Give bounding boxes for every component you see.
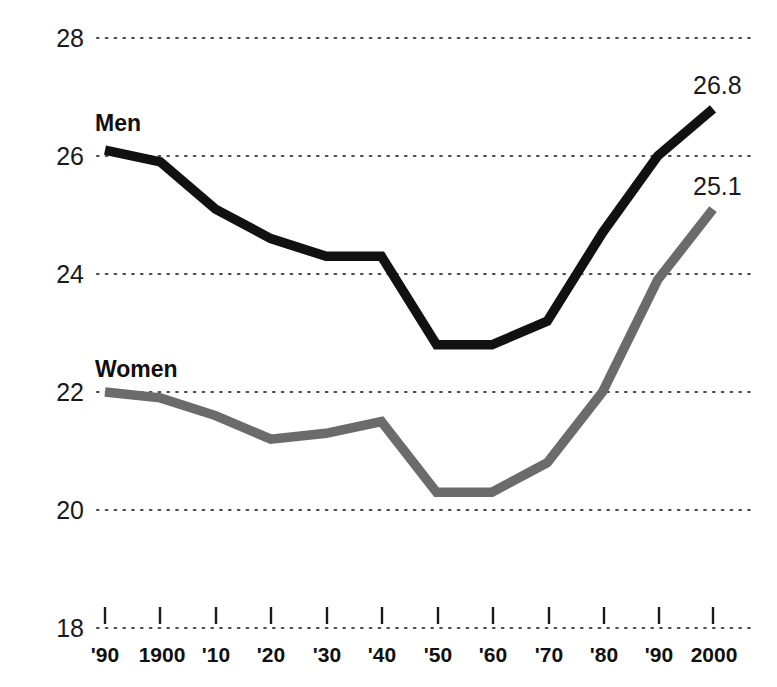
- y-axis-label-28: 28: [26, 26, 84, 51]
- series-line-men: [105, 109, 713, 345]
- y-axis-label-20: 20: [26, 498, 84, 523]
- x-axis-label-1: 1900: [139, 644, 186, 665]
- x-axis-label-7: '60: [479, 644, 507, 665]
- x-axis-label-6: '50: [424, 644, 452, 665]
- series-label-women: Women: [95, 358, 178, 381]
- x-axis-label-2: '10: [202, 644, 230, 665]
- x-axis-label-10: '90: [645, 644, 673, 665]
- y-axis-label-22: 22: [26, 380, 84, 405]
- series-end-value-women: 25.1: [693, 174, 742, 199]
- x-axis-label-3: '20: [257, 644, 285, 665]
- series-label-men: Men: [95, 112, 141, 135]
- x-axis-label-0: '90: [91, 644, 119, 665]
- series-line-women: [105, 209, 713, 492]
- y-axis-label-24: 24: [26, 262, 84, 287]
- y-axis-label-18: 18: [26, 616, 84, 641]
- plot-area: [0, 0, 777, 687]
- x-axis-label-8: '70: [535, 644, 563, 665]
- x-axis-ticks: [105, 607, 713, 624]
- x-axis-label-11: 2000: [691, 644, 738, 665]
- series-end-value-men: 26.8: [693, 73, 742, 98]
- x-axis-label-9: '80: [590, 644, 618, 665]
- x-axis-label-5: '40: [368, 644, 396, 665]
- x-axis-label-4: '30: [313, 644, 341, 665]
- y-axis-label-26: 26: [26, 144, 84, 169]
- line-chart: 28 26 24 22 20 18 '90 1900 '10 '20 '30 '…: [0, 0, 777, 687]
